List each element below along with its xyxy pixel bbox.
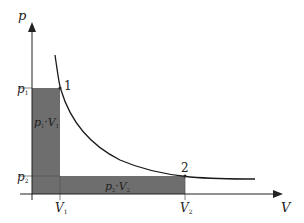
x-axis-label: V bbox=[281, 200, 292, 215]
pv-diagram: p V p1 p2 V1 V2 1 2 p1·V1 p2·V2 bbox=[0, 0, 304, 223]
area-p1v1 bbox=[32, 88, 60, 194]
point-1-label: 1 bbox=[64, 79, 72, 93]
point-1-marker bbox=[59, 87, 62, 90]
isotherm-curve bbox=[55, 55, 255, 179]
area-p2v2-label: p2·V2 bbox=[105, 180, 130, 193]
v2-tick-label: V2 bbox=[180, 201, 193, 215]
y-axis-label: p bbox=[18, 8, 27, 23]
area-p1v1-label: p1·V1 bbox=[34, 116, 59, 129]
x-axis-arrow-icon bbox=[273, 190, 283, 198]
p2-tick-label: p2 bbox=[17, 170, 29, 184]
point-2-label: 2 bbox=[181, 161, 189, 175]
v1-tick-label: V1 bbox=[55, 201, 68, 215]
y-axis-arrow-icon bbox=[28, 22, 36, 32]
p1-tick-label: p1 bbox=[17, 82, 29, 96]
